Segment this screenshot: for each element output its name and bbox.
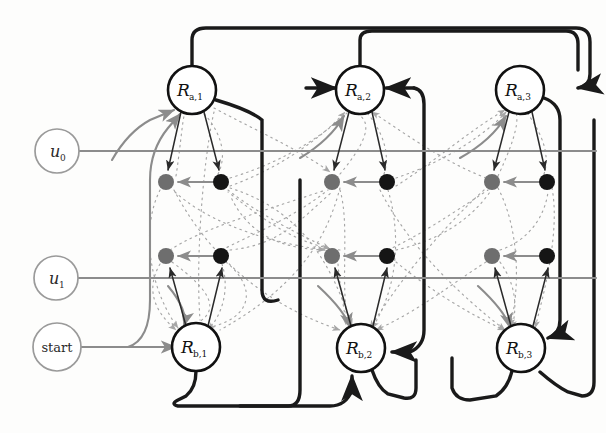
node-ra3-sub: a,3 [517,92,531,102]
node-ra2-label: R [344,80,358,100]
node-rb3[interactable]: R b,3 [497,324,545,372]
node-ra1-sub: a,1 [189,92,203,102]
dot-c1-r1-black[interactable] [213,174,229,190]
diagram-svg: u 0 u 1 start R a,1 R a,2 R a,3 [0,0,606,433]
dot-c3-r2-black[interactable] [539,248,555,264]
dot-c3-r2-gray[interactable] [484,248,500,264]
input-nodes: u 0 u 1 start [33,129,81,371]
node-u1-sub: 1 [59,280,65,290]
node-u0[interactable]: u 0 [35,129,79,173]
edge-ra1-down [216,100,278,301]
node-rb2-sub: b,2 [358,350,372,360]
node-ra3[interactable]: R a,3 [496,66,544,114]
curve-u0-to-ra1 [112,110,174,160]
dot-c2-r2-black[interactable] [379,248,395,264]
node-ra3-label: R [504,80,518,100]
node-rb2[interactable]: R b,2 [337,324,385,372]
edge-loop-right-to-rb2 [392,88,424,352]
node-u1[interactable]: u 1 [34,256,78,300]
diagram-canvas: u 0 u 1 start R a,1 R a,2 R a,3 [0,0,606,433]
dot-c2-r1-gray[interactable] [324,174,340,190]
dot-c2-r1-black[interactable] [379,174,395,190]
region-nodes: R a,1 R a,2 R a,3 R b,1 R b,2 R b,3 [168,66,545,372]
gray-input-edges [78,110,596,347]
node-start[interactable]: start [33,323,81,371]
dot-c1-r2-gray[interactable] [158,248,174,264]
edge-ra3-to-rb3 [544,98,560,338]
node-rb3-label: R [505,338,519,358]
dotted-coupling-edges [150,108,555,330]
node-start-label: start [41,340,73,355]
dot-c1-r1-gray[interactable] [158,174,174,190]
dot-c3-r1-gray[interactable] [484,174,500,190]
edge-mid-vertical [240,180,300,406]
node-ra1[interactable]: R a,1 [168,66,216,114]
node-u0-sub: 0 [60,153,66,163]
edge-ra2-top [360,31,578,70]
node-u0-label: u [50,142,60,161]
node-ra2-sub: a,2 [357,92,371,102]
node-ra2[interactable]: R a,2 [336,66,384,114]
node-ra1-label: R [176,80,190,100]
dot-c1-r2-black[interactable] [213,248,229,264]
node-rb1[interactable]: R b,1 [172,323,220,371]
node-rb1-sub: b,1 [193,349,207,359]
dot-c3-r1-black[interactable] [539,174,555,190]
node-rb3-sub: b,3 [518,350,533,360]
node-rb1-label: R [180,337,194,357]
dot-nodes [158,174,555,264]
node-rb2-label: R [345,338,359,358]
edge-rb1-to-rb2 [174,371,352,406]
dot-c2-r2-gray[interactable] [324,248,340,264]
node-u1-label: u [49,269,59,288]
